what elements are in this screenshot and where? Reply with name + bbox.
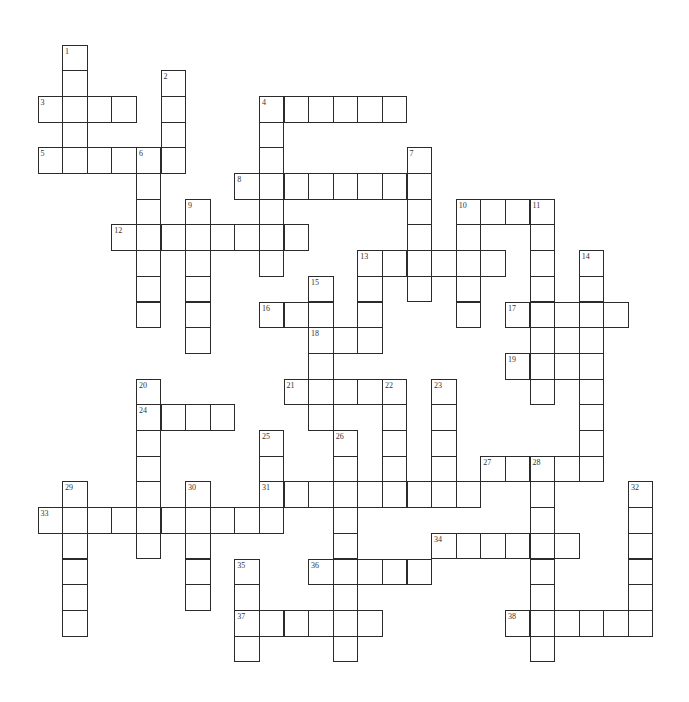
- grid-cell[interactable]: [530, 507, 556, 534]
- grid-cell[interactable]: [62, 147, 88, 174]
- grid-cell[interactable]: 8: [234, 173, 260, 200]
- grid-cell[interactable]: [62, 507, 88, 534]
- grid-cell[interactable]: [136, 533, 162, 560]
- grid-cell[interactable]: [357, 610, 383, 637]
- grid-cell[interactable]: 19: [505, 353, 531, 380]
- grid-cell[interactable]: 35: [234, 559, 260, 586]
- grid-cell[interactable]: [505, 456, 531, 483]
- grid-cell[interactable]: [579, 430, 605, 457]
- grid-cell[interactable]: [62, 559, 88, 586]
- grid-cell[interactable]: [185, 559, 211, 586]
- grid-cell[interactable]: [456, 533, 482, 560]
- grid-cell[interactable]: [333, 533, 359, 560]
- grid-cell[interactable]: [382, 96, 408, 123]
- grid-cell[interactable]: [579, 610, 605, 637]
- grid-cell[interactable]: [161, 404, 187, 431]
- grid-cell[interactable]: 6: [136, 147, 162, 174]
- grid-cell[interactable]: [308, 302, 334, 329]
- grid-cell[interactable]: [357, 173, 383, 200]
- grid-cell[interactable]: [579, 404, 605, 431]
- grid-cell[interactable]: [456, 302, 482, 329]
- grid-cell[interactable]: [111, 147, 137, 174]
- grid-cell[interactable]: [456, 250, 482, 277]
- grid-cell[interactable]: [284, 481, 310, 508]
- grid-cell[interactable]: 23: [431, 379, 457, 406]
- grid-cell[interactable]: [234, 584, 260, 611]
- grid-cell[interactable]: [259, 456, 285, 483]
- grid-cell[interactable]: 24: [136, 404, 162, 431]
- grid-cell[interactable]: [505, 533, 531, 560]
- grid-cell[interactable]: [530, 636, 556, 663]
- grid-cell[interactable]: [505, 199, 531, 226]
- grid-cell[interactable]: 7: [407, 147, 433, 174]
- grid-cell[interactable]: [407, 224, 433, 251]
- grid-cell[interactable]: [357, 302, 383, 329]
- grid-cell[interactable]: 36: [308, 559, 334, 586]
- grid-cell[interactable]: 34: [431, 533, 457, 560]
- grid-cell[interactable]: [407, 199, 433, 226]
- grid-cell[interactable]: [357, 276, 383, 303]
- grid-cell[interactable]: [382, 173, 408, 200]
- grid-cell[interactable]: 22: [382, 379, 408, 406]
- grid-cell[interactable]: 25: [259, 430, 285, 457]
- grid-cell[interactable]: [136, 276, 162, 303]
- grid-cell[interactable]: [357, 481, 383, 508]
- grid-cell[interactable]: [554, 302, 580, 329]
- grid-cell[interactable]: [579, 353, 605, 380]
- grid-cell[interactable]: [530, 533, 556, 560]
- grid-cell[interactable]: [87, 96, 113, 123]
- grid-cell[interactable]: 4: [259, 96, 285, 123]
- grid-cell[interactable]: 29: [62, 481, 88, 508]
- grid-cell[interactable]: [530, 224, 556, 251]
- grid-cell[interactable]: [579, 276, 605, 303]
- grid-cell[interactable]: [136, 302, 162, 329]
- grid-cell[interactable]: [259, 224, 285, 251]
- grid-cell[interactable]: [62, 122, 88, 149]
- grid-cell[interactable]: [185, 507, 211, 534]
- grid-cell[interactable]: [62, 96, 88, 123]
- grid-cell[interactable]: [234, 224, 260, 251]
- grid-cell[interactable]: [357, 559, 383, 586]
- grid-cell[interactable]: [530, 250, 556, 277]
- grid-cell[interactable]: [431, 481, 457, 508]
- grid-cell[interactable]: [407, 276, 433, 303]
- grid-cell[interactable]: [357, 96, 383, 123]
- grid-cell[interactable]: [185, 584, 211, 611]
- grid-cell[interactable]: [628, 533, 654, 560]
- grid-cell[interactable]: [333, 636, 359, 663]
- grid-cell[interactable]: [259, 147, 285, 174]
- grid-cell[interactable]: [333, 481, 359, 508]
- grid-cell[interactable]: [333, 96, 359, 123]
- grid-cell[interactable]: [530, 481, 556, 508]
- grid-cell[interactable]: [333, 584, 359, 611]
- grid-cell[interactable]: [87, 147, 113, 174]
- grid-cell[interactable]: [185, 327, 211, 354]
- grid-cell[interactable]: [161, 224, 187, 251]
- grid-cell[interactable]: 37: [234, 610, 260, 637]
- grid-cell[interactable]: [382, 404, 408, 431]
- grid-cell[interactable]: [480, 199, 506, 226]
- grid-cell[interactable]: [333, 327, 359, 354]
- grid-cell[interactable]: [456, 276, 482, 303]
- grid-cell[interactable]: [456, 224, 482, 251]
- grid-cell[interactable]: [554, 610, 580, 637]
- grid-cell[interactable]: [136, 250, 162, 277]
- grid-cell[interactable]: [628, 559, 654, 586]
- grid-cell[interactable]: [628, 507, 654, 534]
- grid-cell[interactable]: [136, 456, 162, 483]
- grid-cell[interactable]: [382, 456, 408, 483]
- grid-cell[interactable]: 10: [456, 199, 482, 226]
- grid-cell[interactable]: [579, 456, 605, 483]
- grid-cell[interactable]: [111, 96, 137, 123]
- grid-cell[interactable]: 18: [308, 327, 334, 354]
- grid-cell[interactable]: [308, 610, 334, 637]
- grid-cell[interactable]: 15: [308, 276, 334, 303]
- grid-cell[interactable]: [530, 353, 556, 380]
- grid-cell[interactable]: 17: [505, 302, 531, 329]
- grid-cell[interactable]: [407, 481, 433, 508]
- grid-cell[interactable]: [603, 302, 629, 329]
- grid-cell[interactable]: [161, 96, 187, 123]
- grid-cell[interactable]: [333, 610, 359, 637]
- grid-cell[interactable]: [357, 379, 383, 406]
- grid-cell[interactable]: 11: [530, 199, 556, 226]
